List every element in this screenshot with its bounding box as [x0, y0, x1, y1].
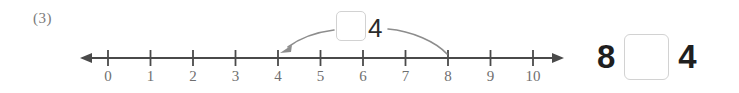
curved-arrow-right-icon — [388, 29, 447, 54]
left-arrowhead-icon — [80, 53, 92, 63]
tick-label-7: 7 — [402, 68, 410, 85]
curved-arrow-left-icon — [288, 30, 334, 47]
worksheet-problem: (3) — [0, 0, 739, 93]
tick-label-4: 4 — [274, 68, 282, 85]
tick-label-2: 2 — [189, 68, 197, 85]
tick-label-1: 1 — [147, 68, 155, 85]
tick-label-9: 9 — [487, 68, 495, 85]
tick-label-6: 6 — [359, 68, 367, 85]
equation-right-operand: 4 — [678, 39, 696, 75]
tick-label-3: 3 — [232, 68, 240, 85]
jump-answer-box[interactable] — [336, 11, 366, 41]
tick-label-8: 8 — [444, 68, 452, 85]
jump-operand-label: 4 — [368, 14, 382, 42]
equation: 8 4 — [597, 34, 697, 80]
curved-arrow-left-head-icon — [280, 45, 292, 53]
tick-label-10: 10 — [526, 68, 541, 85]
equation-answer-box[interactable] — [624, 34, 669, 80]
tick-label-0: 0 — [104, 68, 112, 85]
right-arrowhead-icon — [552, 53, 564, 63]
tick-label-5: 5 — [317, 68, 325, 85]
equation-left-operand: 8 — [597, 39, 615, 75]
